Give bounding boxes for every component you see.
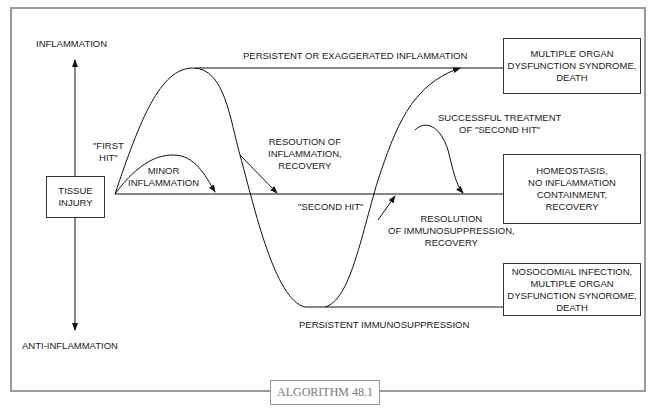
nosocomial-outcome-box: NOSOCOMIAL INFECTION, MULTIPLE ORGAN DYS… <box>503 263 641 316</box>
caption-text: ALGORITHM 48.1 <box>277 385 373 400</box>
tissue-injury-text: TISSUE INJURY <box>58 185 92 209</box>
first-hit-label: "FIRST HIT" <box>93 140 124 164</box>
persistent-immunosuppression-label: PERSISTENT IMMUNOSUPPRESSION <box>299 319 469 331</box>
nosocomial-outcome-text: NOSOCOMIAL INFECTION, MULTIPLE ORGAN DYS… <box>507 266 636 314</box>
resolution-inflammation-label: RESOUTION OF INFLAMMATION, RECOVERY <box>268 136 342 172</box>
algorithm-caption: ALGORITHM 48.1 <box>270 380 380 405</box>
persistent-inflammation-label: PERSISTENT OR EXAGGERATED INFLAMMATION <box>243 50 467 62</box>
second-hit-label: "SECOND HIT" <box>298 201 363 213</box>
minor-inflammation-label: MINOR INFLAMMATION <box>128 165 199 189</box>
tissue-injury-box: TISSUE INJURY <box>46 176 105 218</box>
resolution-immunosuppression-label: RESOLUTION OF IMMUNOSUPPRESSION, RECOVER… <box>388 213 515 249</box>
mods-outcome-text: MULTIPLE ORGAN DYSFUNCTION SYNDROME, DEA… <box>508 48 637 84</box>
inflammation-axis-label: INFLAMMATION <box>36 38 107 50</box>
homeostasis-outcome-text: HOMEOSTASIS, NO INFLAMMATION CONTAINMENT… <box>528 165 616 213</box>
successful-treatment-label: SUCCESSFUL TREATMENT OF "SECOND HIT" <box>438 112 561 136</box>
mods-outcome-box: MULTIPLE ORGAN DYSFUNCTION SYNDROME, DEA… <box>503 38 641 94</box>
homeostasis-outcome-box: HOMEOSTASIS, NO INFLAMMATION CONTAINMENT… <box>503 154 641 224</box>
anti-inflammation-axis-label: ANTI-INFLAMMATION <box>22 340 118 352</box>
